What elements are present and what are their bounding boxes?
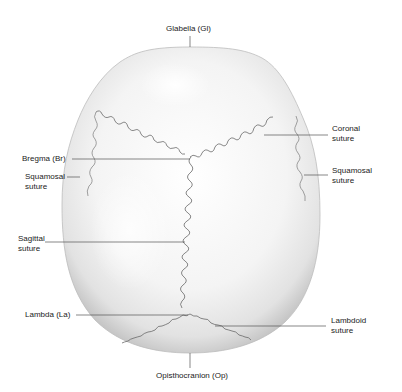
highlight [140,63,210,107]
label-coronal-line1: Coronal [332,124,360,134]
label-sagittal: Sagittal suture [18,234,45,254]
label-opisthocranion: Opisthocranion (Op) [156,371,228,381]
label-glabella: Glabella (Gl) [166,24,211,34]
label-sagittal-line1: Sagittal [18,234,45,244]
label-lambdoid: Lambdoid suture [331,316,366,336]
label-squamosal-right-line2: suture [332,176,372,186]
label-squamosal-left: Squamosal suture [25,172,65,192]
label-lambda: Lambda (La) [25,310,70,320]
label-sagittal-line2: suture [18,244,45,254]
highlight [90,170,170,290]
label-squamosal-right-line1: Squamosal [332,166,372,176]
label-coronal: Coronal suture [332,124,360,144]
label-squamosal-left-line2: suture [25,182,65,192]
label-lambdoid-line1: Lambdoid [331,316,366,326]
label-squamosal-right: Squamosal suture [332,166,372,186]
label-bregma: Bregma (Br) [22,154,66,164]
label-lambdoid-line2: suture [331,326,366,336]
label-squamosal-left-line1: Squamosal [25,172,65,182]
label-coronal-line2: suture [332,134,360,144]
